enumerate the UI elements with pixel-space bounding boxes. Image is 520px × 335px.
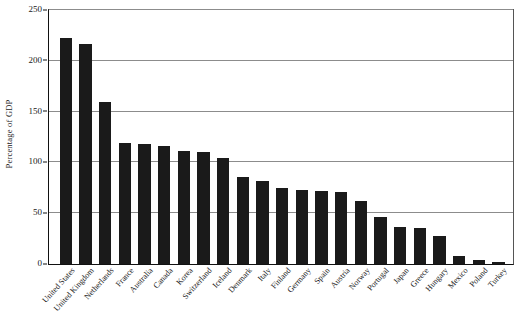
bar — [394, 227, 406, 264]
bar — [256, 181, 268, 264]
bar-chart: Percentage of GDP 050100150200250 United… — [0, 0, 520, 335]
plot-area — [48, 9, 514, 265]
bar — [79, 44, 91, 264]
bar — [138, 144, 150, 264]
bar — [119, 143, 131, 264]
bar — [237, 177, 249, 264]
bar — [355, 201, 367, 264]
y-tick-mark — [43, 212, 47, 213]
bar — [178, 151, 190, 264]
y-tick-label: 50 — [16, 208, 42, 217]
y-axis-title: Percentage of GDP — [2, 0, 16, 268]
bar — [414, 228, 426, 264]
y-axis-title-text: Percentage of GDP — [4, 99, 14, 168]
bar — [473, 260, 485, 264]
bar — [60, 38, 72, 264]
bar — [433, 236, 445, 264]
bar — [453, 256, 465, 264]
bar — [197, 152, 209, 264]
y-tick-label: 0 — [16, 259, 42, 268]
bar — [374, 217, 386, 264]
y-tick-mark — [43, 9, 47, 10]
bars-layer — [49, 10, 513, 264]
y-tick-mark — [43, 263, 47, 264]
y-tick-label: 150 — [16, 106, 42, 115]
x-tick-label: Poland — [467, 266, 489, 289]
y-tick-label: 200 — [16, 55, 42, 64]
y-tick-mark — [43, 111, 47, 112]
y-tick-mark — [43, 60, 47, 61]
y-tick-label: 100 — [16, 157, 42, 166]
bar — [296, 190, 308, 264]
x-tick-label: Mexico — [446, 266, 469, 291]
bar — [335, 192, 347, 264]
bar — [315, 191, 327, 264]
bar — [276, 188, 288, 264]
bar — [492, 262, 504, 264]
x-tick-label: Turkey — [487, 266, 509, 289]
x-tick-label: Italy — [256, 266, 273, 283]
bar — [217, 158, 229, 264]
y-axis-tick-labels: 050100150200250 — [16, 0, 42, 268]
x-axis-tick-labels: United StatesUnited KingdomNetherlandsFr… — [48, 266, 514, 335]
y-tick-label: 250 — [16, 5, 42, 14]
bar — [158, 146, 170, 264]
y-tick-mark — [43, 161, 47, 162]
bar — [99, 102, 111, 264]
x-tick-label: Canada — [152, 266, 175, 290]
